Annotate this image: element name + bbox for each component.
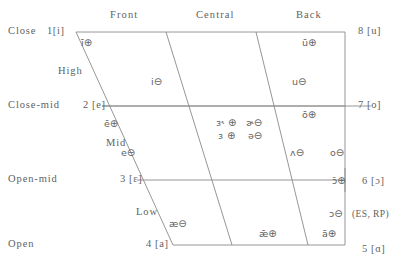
lax-mark-icon: ⊖ xyxy=(254,130,262,141)
vowel-o-short: o⊖ xyxy=(330,148,344,158)
central-back-divider xyxy=(256,32,308,245)
vowel-symbol: ǣ xyxy=(259,228,268,239)
tense-mark-icon: ⊕ xyxy=(227,130,235,141)
corner-number-8: 8 [u] xyxy=(358,26,381,37)
vowel-i-short: i⊖ xyxy=(151,77,162,87)
lax-mark-icon: ⊖ xyxy=(254,117,262,128)
vowel-open-o-long: ɔ̄⊕ xyxy=(332,176,346,186)
height-label-open-mid: Open-mid xyxy=(8,174,58,185)
tense-mark-icon: ⊕ xyxy=(110,118,118,129)
lax-mark-icon: ⊖ xyxy=(334,208,342,219)
corner-number-5: 5 [ɑ] xyxy=(362,244,385,255)
vowel-ash-long: ǣ⊕ xyxy=(259,229,277,239)
vowel-u-short: u⊖ xyxy=(292,77,306,87)
corner-number-4: 4 [a] xyxy=(146,239,169,250)
tense-mark-icon: ⊕ xyxy=(308,37,316,48)
vowel-i-long: ī⊕ xyxy=(81,38,92,48)
height-label-close: Close xyxy=(8,26,36,37)
lax-mark-icon: ⊖ xyxy=(178,218,186,229)
corner-number-2: 2 [e] xyxy=(83,100,106,111)
corner-number-7: 7 [o] xyxy=(358,100,381,111)
vowel-e-short: e⊖ xyxy=(121,148,135,158)
band-label-low: Low xyxy=(136,207,158,218)
tense-mark-icon: ⊕ xyxy=(308,109,316,120)
vowel-schwa: ə⊖ xyxy=(248,131,262,141)
vowel-a-long: ā⊕ xyxy=(322,229,336,239)
vowel-chart: Front Central Back Close Close-mid Open-… xyxy=(0,0,405,264)
height-label-open: Open xyxy=(8,239,34,250)
column-heading-central: Central xyxy=(196,10,235,21)
vowel-e-long: ē⊕ xyxy=(104,119,118,129)
vowel-symbol: ɜ˞ xyxy=(216,117,224,128)
vowel-ash: æ⊖ xyxy=(169,219,187,229)
band-label-high: High xyxy=(58,66,83,77)
lax-mark-icon: ⊖ xyxy=(127,147,135,158)
vowel-er-short: ɜ⊕ xyxy=(218,131,235,141)
lax-mark-icon: ⊖ xyxy=(336,147,344,158)
lax-mark-icon: ⊖ xyxy=(296,147,304,158)
corner-number-3: 3 [ɛ] xyxy=(120,174,142,185)
lax-mark-icon: ⊖ xyxy=(298,76,306,87)
tense-mark-icon: ⊕ xyxy=(337,175,345,186)
height-label-close-mid: Close-mid xyxy=(8,100,60,111)
corner-number-6: 6 [ɔ] xyxy=(362,176,385,187)
vowel-er-long: ɜ˞⊕ xyxy=(216,118,236,128)
vowel-o-long: ō⊕ xyxy=(302,110,316,120)
vowel-schwar: ɚ⊖ xyxy=(246,118,262,128)
vowel-open-o: ɔ⊖ xyxy=(329,209,343,219)
lax-mark-icon: ⊖ xyxy=(154,76,162,87)
column-heading-front: Front xyxy=(110,10,138,21)
corner-number-1: 1[i] xyxy=(47,26,65,37)
tense-mark-icon: ⊕ xyxy=(228,117,236,128)
tense-mark-icon: ⊕ xyxy=(328,228,336,239)
column-heading-back: Back xyxy=(296,10,322,21)
chart-lines xyxy=(0,0,405,264)
vowel-symbol: ɚ xyxy=(246,117,254,128)
annotation-es-rp: (ES, RP) xyxy=(352,210,389,220)
tense-mark-icon: ⊕ xyxy=(268,228,276,239)
tense-mark-icon: ⊕ xyxy=(84,37,92,48)
vowel-u-long: ū⊕ xyxy=(302,38,316,48)
vowel-symbol: ɜ xyxy=(218,130,223,141)
vowel-wedge: ʌ⊖ xyxy=(290,148,304,158)
vowel-symbol: æ xyxy=(169,218,178,229)
